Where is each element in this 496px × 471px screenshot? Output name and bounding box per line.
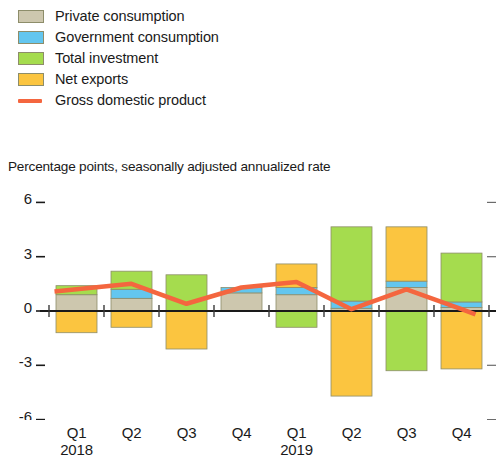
- legend-item-label: Government consumption: [55, 30, 219, 45]
- x-axis-labels: Q12018Q2Q3Q4Q12019Q2Q3Q4: [0, 424, 496, 470]
- chart-plot-area: 630-3-6: [0, 190, 496, 420]
- x-axis-quarter-label: Q4: [232, 424, 252, 441]
- x-axis-year-label: 2019: [269, 441, 324, 458]
- square-swatch-icon: [18, 10, 44, 23]
- bar-segment: [276, 295, 317, 311]
- y-tick-label: 6: [24, 190, 32, 207]
- bar-segment: [331, 227, 372, 301]
- x-axis-label: Q4: [214, 424, 269, 441]
- chart-legend: Private consumption Government consumpti…: [18, 6, 478, 111]
- bar-segment: [56, 295, 97, 311]
- bar-segment: [386, 311, 427, 371]
- bar-segment: [166, 311, 207, 349]
- bar-segment: [386, 227, 427, 281]
- chart-svg: 630-3-6: [0, 190, 496, 420]
- x-axis-quarter-label: Q1: [67, 424, 87, 441]
- x-axis-label: Q3: [159, 424, 214, 441]
- x-axis-label: Q3: [379, 424, 434, 441]
- bar-segment: [111, 311, 152, 327]
- bar-segment: [386, 281, 427, 287]
- x-axis-quarter-label: Q3: [397, 424, 417, 441]
- x-axis-quarter-label: Q2: [342, 424, 362, 441]
- legend-item-gross-domestic-product: Gross domestic product: [18, 90, 478, 111]
- y-tick-label: -6: [19, 408, 32, 420]
- legend-item-label: Private consumption: [55, 9, 184, 24]
- legend-item-private-consumption: Private consumption: [18, 6, 478, 27]
- x-axis-quarter-label: Q1: [287, 424, 307, 441]
- legend-item-label: Gross domestic product: [55, 93, 206, 108]
- x-axis-label: Q12019: [269, 424, 324, 458]
- bar-segment: [111, 298, 152, 311]
- legend-item-label: Total investment: [55, 51, 158, 66]
- x-axis-label: Q4: [434, 424, 489, 441]
- line-swatch-icon: [18, 94, 44, 107]
- legend-item-label: Net exports: [55, 72, 128, 87]
- bar-segment: [331, 311, 372, 396]
- x-axis-quarter-label: Q3: [177, 424, 197, 441]
- bar-segment: [441, 253, 482, 302]
- x-axis-year-label: 2018: [49, 441, 104, 458]
- bar-segment: [221, 293, 262, 311]
- square-swatch-icon: [18, 31, 44, 44]
- x-axis-quarter-label: Q2: [122, 424, 142, 441]
- square-swatch-icon: [18, 73, 44, 86]
- bar-segment: [276, 311, 317, 327]
- x-axis-label: Q2: [104, 424, 159, 441]
- x-axis-quarter-label: Q4: [452, 424, 472, 441]
- square-swatch-icon: [18, 52, 44, 65]
- chart-subtitle: Percentage points, seasonally adjusted a…: [8, 159, 330, 174]
- legend-item-government-consumption: Government consumption: [18, 27, 478, 48]
- x-axis-label: Q12018: [49, 424, 104, 458]
- legend-item-total-investment: Total investment: [18, 48, 478, 69]
- x-axis-label: Q2: [324, 424, 379, 441]
- y-tick-label: 3: [24, 245, 32, 262]
- bar-segment: [56, 311, 97, 333]
- bar-segment: [441, 311, 482, 369]
- legend-item-net-exports: Net exports: [18, 69, 478, 90]
- y-tick-label: 0: [24, 299, 32, 316]
- y-tick-label: -3: [19, 353, 32, 370]
